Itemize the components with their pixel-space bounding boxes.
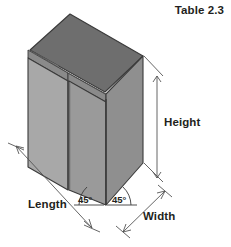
height-extension-upper [144,56,163,76]
width-dimension: Width [116,185,175,238]
length-label: Length [28,198,67,210]
angle-label-left: 45° [78,194,93,205]
height-label: Height [164,116,200,128]
box-solid [28,14,143,205]
angle-label-right: 45° [112,194,127,205]
height-dimension: Height [144,56,200,182]
width-label: Width [143,210,175,222]
box-diagram-svg: Height Length Width [0,0,231,247]
figure-container: Table 2.3 [0,0,231,247]
box-right-face [69,81,106,205]
box-left-face [28,58,68,190]
